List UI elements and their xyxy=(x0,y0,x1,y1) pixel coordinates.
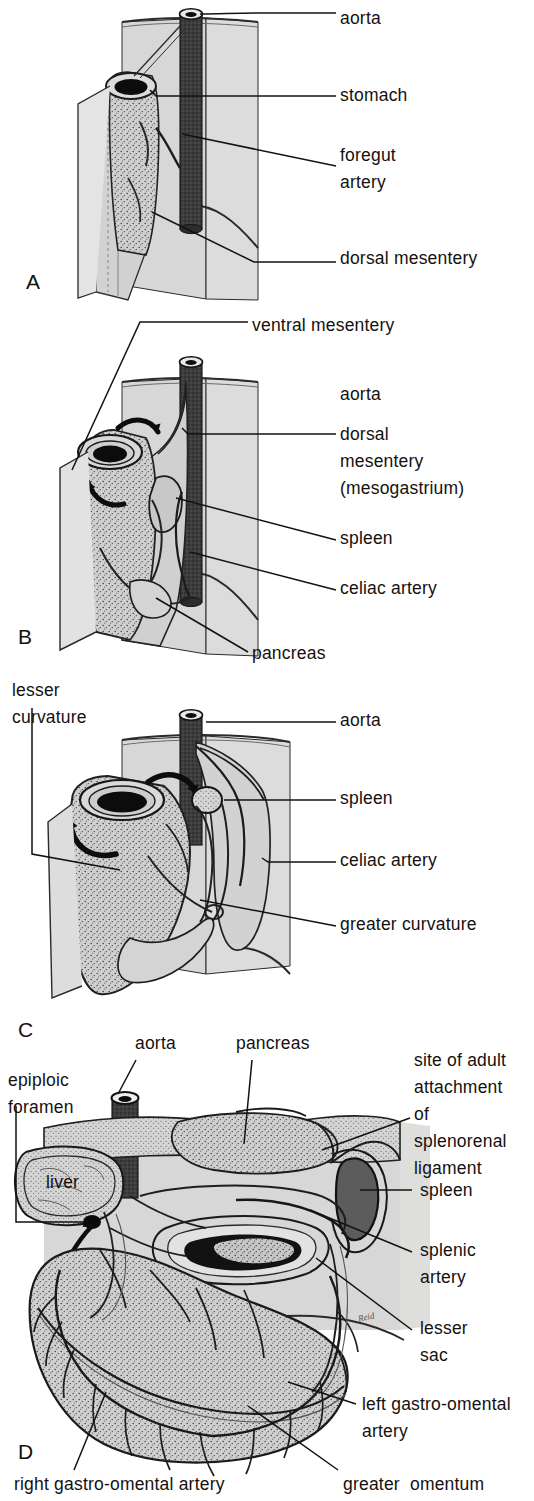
label-greater-omentum-d: greater omentum xyxy=(343,1474,484,1495)
label-liver-d: liver xyxy=(46,1172,79,1193)
label-ventral-mesentery-b: ventral mesentery xyxy=(252,315,395,336)
label-splenorenal-d-4: splenorenal xyxy=(414,1131,507,1152)
label-dorsal-mesentery-b-2: mesentery xyxy=(340,451,424,472)
pancreas-d xyxy=(172,1113,338,1173)
label-pancreas-b: pancreas xyxy=(252,643,326,664)
body-wall-d-right xyxy=(400,1122,430,1330)
stomach-lumen-c xyxy=(97,792,147,813)
panel-letter-d: D xyxy=(18,1440,34,1464)
label-stomach-a: stomach xyxy=(340,85,408,106)
label-splenic-artery-d-1: splenic xyxy=(420,1240,476,1261)
label-splenorenal-d-5: ligament xyxy=(414,1158,482,1179)
aorta-cut-end-a xyxy=(180,224,202,233)
aorta-lumen-c xyxy=(185,713,196,718)
label-left-gastro-omental-d-1: left gastro-omental xyxy=(362,1394,511,1415)
label-spleen-d: spleen xyxy=(420,1180,473,1201)
label-lesser-curvature-c-2: curvature xyxy=(12,707,87,728)
label-lesser-curvature-c-1: lesser xyxy=(12,680,60,701)
stomach-lumen-a xyxy=(115,79,148,95)
spleen-c xyxy=(192,787,222,813)
body-wall-a-right xyxy=(206,18,258,300)
label-aorta-d: aorta xyxy=(135,1033,176,1054)
label-splenorenal-d-2: attachment xyxy=(414,1077,503,1098)
aorta-lumen-b xyxy=(185,360,196,365)
panel-letter-a: A xyxy=(26,270,41,294)
stomach-lumen-b xyxy=(93,446,127,463)
label-pancreas-d: pancreas xyxy=(236,1033,310,1054)
label-lesser-sac-d-2: sac xyxy=(420,1345,448,1366)
label-aorta-b: aorta xyxy=(340,384,381,405)
label-splenorenal-d-3: of xyxy=(414,1104,429,1125)
label-splenorenal-d-1: site of adult xyxy=(414,1050,506,1071)
label-dorsal-mesentery-b-3: (mesogastrium) xyxy=(340,478,464,499)
label-foregut-artery-a-1: foregut xyxy=(340,145,396,166)
label-lesser-sac-d-1: lesser xyxy=(420,1318,468,1339)
label-spleen-b: spleen xyxy=(340,528,393,549)
label-dorsal-mesentery-b-1: dorsal xyxy=(340,424,389,445)
label-foregut-artery-a-2: artery xyxy=(340,172,386,193)
label-dorsal-mesentery-a: dorsal mesentery xyxy=(340,248,477,269)
label-right-gastro-omental-d: right gastro-omental artery xyxy=(14,1474,225,1495)
label-spleen-c: spleen xyxy=(340,788,393,809)
label-celiac-artery-b: celiac artery xyxy=(340,578,437,599)
aorta-lumen-a xyxy=(185,12,196,17)
panel-letter-c: C xyxy=(18,1018,34,1042)
panel-letter-b: B xyxy=(18,625,33,649)
label-aorta-a: aorta xyxy=(340,8,381,29)
label-celiac-artery-c: celiac artery xyxy=(340,850,437,871)
label-aorta-c: aorta xyxy=(340,710,381,731)
aorta-a xyxy=(180,14,202,229)
label-greater-curvature-c: greater curvature xyxy=(340,914,477,935)
label-left-gastro-omental-d-2: artery xyxy=(362,1421,408,1442)
label-epiploic-foramen-d-1: epiploic xyxy=(8,1070,69,1091)
label-splenic-artery-d-2: artery xyxy=(420,1267,466,1288)
label-epiploic-foramen-d-2: foramen xyxy=(8,1097,74,1118)
aorta-lumen-d xyxy=(118,1096,131,1102)
